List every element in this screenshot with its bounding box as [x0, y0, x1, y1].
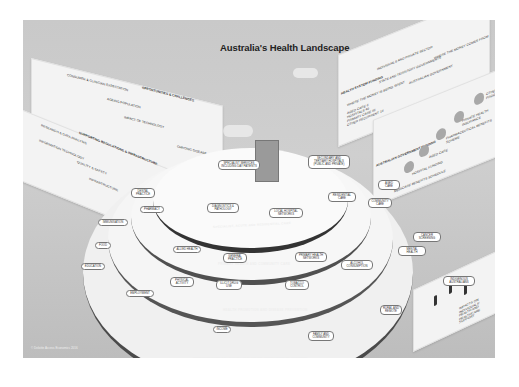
pill-allied-health: Allied health: [173, 246, 201, 253]
impacts-panel: Impacts on individuals' health and healt…: [413, 249, 495, 352]
label-ageing-population: Ageing population: [107, 98, 141, 110]
pill-community-care: Community care: [368, 198, 392, 208]
page-title: Australia's Health Landscape: [220, 42, 349, 53]
cloud-decoration: [223, 125, 253, 137]
pill-family-community: Family and community: [308, 331, 334, 341]
source-individuals: Individuals and private sector: [377, 46, 433, 72]
label-where-from: Where the money comes from: [434, 35, 488, 61]
opportunities-heading: Opportunities & Challenges: [142, 87, 194, 104]
band-prevention: Health Promotion and Disease Prevention: [223, 308, 308, 312]
pill-alcohol: Alcohol consumption: [341, 260, 373, 270]
copyright-text: © Deloitte Access Economics 2016: [31, 346, 78, 350]
pill-income: Income: [213, 326, 231, 333]
pill-illicit-drugs: Illicit drug use: [216, 280, 242, 290]
person-icon: [434, 295, 437, 306]
infographic-frame: Australia's Health Landscape Consumer & …: [23, 20, 495, 358]
impacts-label: Impacts on individuals' health and healt…: [459, 294, 489, 326]
pill-specialist-services: Specialist services including day patien…: [218, 160, 260, 170]
label-infrastructure: Infrastructure: [89, 178, 118, 193]
pill-general-practice: General practice: [223, 253, 247, 263]
pill-rural-remote: Rural and remote: [380, 305, 402, 315]
pill-hospitals: Secondary and tertiary hospitals (public…: [308, 155, 350, 169]
pill-dental: Dental practice: [131, 188, 155, 198]
cloud-decoration: [293, 68, 318, 78]
pill-tobacco: Tobacco control: [285, 280, 309, 290]
pill-mental-health: Mental health: [398, 246, 426, 256]
pill-indigenous: Indigenous Australians: [443, 276, 475, 286]
pill-cancer-screening: Cancer screening: [413, 232, 441, 242]
pill-lhn: Local hospital networks: [269, 208, 303, 218]
label-consumer-expectation: Consumer & clinician expectation: [67, 74, 128, 93]
pill-diagnostics: Diagnostics & pathology: [207, 203, 239, 213]
pill-food: Food: [95, 242, 111, 249]
money-bag-icon: [436, 127, 446, 142]
pill-residential-care: Residential care: [328, 192, 356, 202]
pill-aged-care: Aged care: [378, 180, 400, 190]
label-quality-safety: Quality & safety: [77, 161, 107, 177]
pill-education: Education: [81, 263, 105, 270]
pill-pharmacy: Pharmacy: [140, 206, 164, 213]
gov-other-programs: Other Programs: [486, 86, 495, 101]
pill-immunisation: Immunisation: [98, 219, 128, 226]
pill-employment: Employment: [126, 290, 154, 297]
label-impact-technology: Impact of technology: [124, 116, 164, 130]
money-bag-icon: [474, 91, 484, 106]
pill-physical-activity: Physical activity: [170, 277, 194, 287]
gov-aged-care: Aged Care: [429, 149, 448, 160]
band-determinants: Determinants of Health and Other Demogra…: [193, 357, 308, 358]
pill-phn: Primary health networks: [295, 252, 327, 262]
